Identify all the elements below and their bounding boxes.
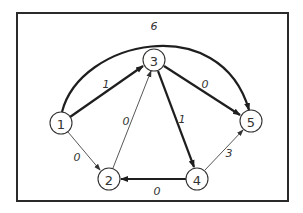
edge-label-1-5: 6 [151, 20, 158, 33]
node-label-5: 5 [247, 115, 255, 130]
edge-label-2-3: 0 [123, 115, 130, 128]
node-2: 2 [98, 168, 120, 190]
node-4: 4 [186, 168, 208, 190]
node-1: 1 [50, 112, 72, 134]
edge-2-to-3 [113, 71, 151, 168]
edge-label-3-4: 1 [179, 113, 186, 126]
edge-4-to-5 [205, 130, 243, 170]
node-label-4: 4 [193, 173, 201, 188]
node-3: 3 [143, 49, 165, 71]
edge-1-to-3 [70, 66, 143, 117]
edge-label-1-2: 0 [74, 151, 81, 164]
edge-label-4-2: 0 [154, 185, 161, 198]
edge-label-4-5: 3 [226, 147, 233, 160]
node-label-1: 1 [57, 117, 65, 132]
edge-label-3-5: 0 [202, 78, 209, 91]
node-5: 5 [240, 110, 262, 132]
edge-3-to-4 [158, 71, 194, 167]
edge-label-1-3: 1 [103, 78, 110, 91]
node-label-2: 2 [105, 173, 113, 188]
node-label-3: 3 [150, 54, 158, 69]
graph-diagram: 6 1 0 0 0 1 0 3 1 2 3 4 5 [0, 0, 303, 213]
